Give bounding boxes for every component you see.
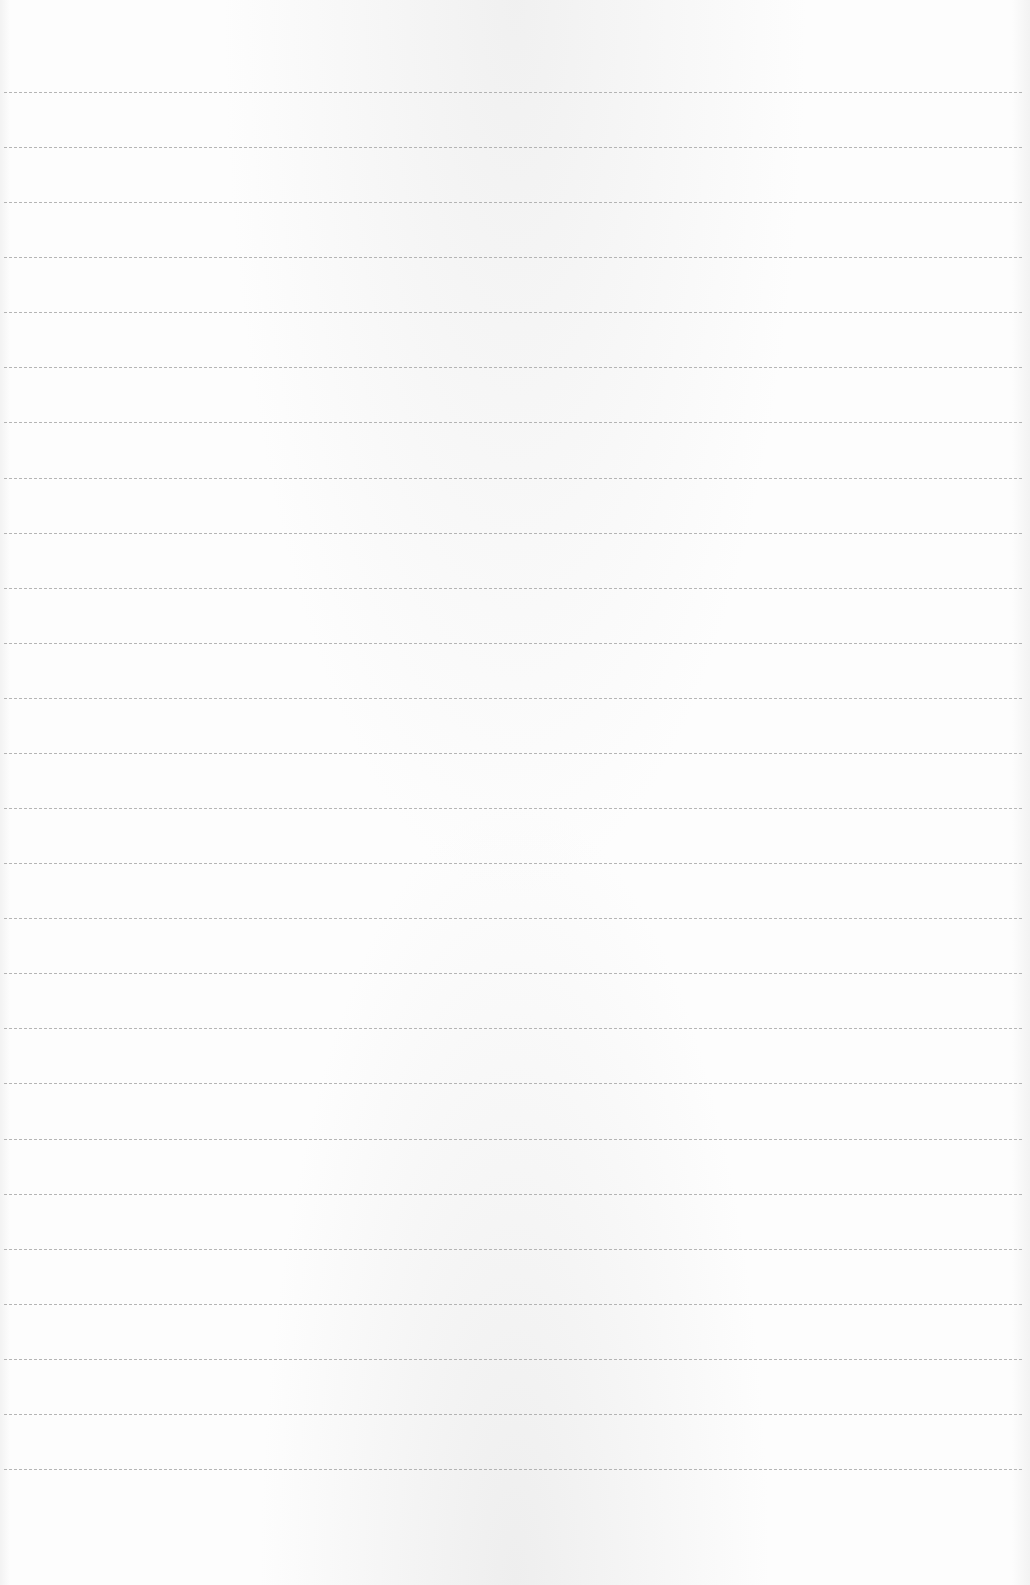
rule-line bbox=[4, 1304, 1022, 1305]
rule-line bbox=[4, 147, 1022, 148]
rule-line bbox=[4, 973, 1022, 974]
rule-line bbox=[4, 1194, 1022, 1195]
rule-line bbox=[4, 312, 1022, 313]
rule-line bbox=[4, 1083, 1022, 1084]
rule-line bbox=[4, 1469, 1022, 1470]
lined-paper-page bbox=[0, 0, 1030, 1585]
rule-line bbox=[4, 1139, 1022, 1140]
rule-line bbox=[4, 698, 1022, 699]
rule-line bbox=[4, 92, 1022, 93]
rule-line bbox=[4, 1359, 1022, 1360]
rule-line bbox=[4, 367, 1022, 368]
rule-line bbox=[4, 1249, 1022, 1250]
rule-line bbox=[4, 533, 1022, 534]
rule-line bbox=[4, 478, 1022, 479]
rule-line bbox=[4, 257, 1022, 258]
rule-line bbox=[4, 643, 1022, 644]
rule-line bbox=[4, 588, 1022, 589]
rule-line bbox=[4, 863, 1022, 864]
rule-line bbox=[4, 202, 1022, 203]
rule-line bbox=[4, 1028, 1022, 1029]
rule-line bbox=[4, 808, 1022, 809]
rule-line bbox=[4, 422, 1022, 423]
rule-line bbox=[4, 753, 1022, 754]
rule-line bbox=[4, 1414, 1022, 1415]
rule-line bbox=[4, 918, 1022, 919]
